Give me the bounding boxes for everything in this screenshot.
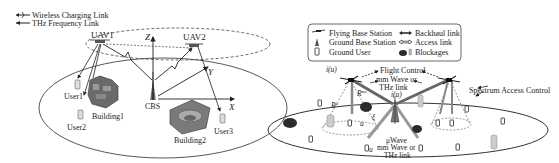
ground-user-legend-icon xyxy=(315,48,319,55)
z-axis-label: Z xyxy=(145,32,151,42)
uav1-label: UAV1 xyxy=(91,30,114,40)
right-legend: Flying Base Station Ground Base Station … xyxy=(308,24,461,61)
diagram-canvas: Wireless Charging Link THz Frequency Lin… xyxy=(0,0,559,163)
thz-links xyxy=(103,44,192,80)
backhaul-link-legend-label: Backhaul link xyxy=(415,29,460,38)
flight-control-label: Flight Control xyxy=(380,66,426,75)
u-label-2: u xyxy=(369,145,373,154)
user2-icon xyxy=(78,110,83,119)
thz-frequency-legend-label: THz Frequency Link xyxy=(32,19,99,28)
i-u-center-label: i(u) xyxy=(391,90,402,99)
blockages-legend-label: Blockages xyxy=(415,48,448,57)
y-axis-label: Y xyxy=(208,67,214,77)
building1-label: Building1 xyxy=(92,112,124,121)
access-link-legend-label: Access link xyxy=(415,38,452,47)
user2-label: User2 xyxy=(67,123,86,132)
r-nu-label: Rnu xyxy=(356,89,367,98)
ground-user-legend-label: Ground User xyxy=(329,48,371,57)
i-u-left-label: i(u) xyxy=(326,65,337,74)
spectrum-access-control-label: Spectrum Access Control xyxy=(469,86,551,95)
uav1-icon xyxy=(90,40,110,43)
user3-icon xyxy=(220,114,225,123)
building2-icon xyxy=(170,100,210,134)
user1-icon xyxy=(75,80,80,89)
thz-link-bottom-label: THz link xyxy=(384,151,411,160)
uav2-label: UAV2 xyxy=(183,32,206,42)
user3-label: User3 xyxy=(214,127,233,136)
xi-label: ξ xyxy=(372,113,376,122)
left-panel: Wireless Charging Link THz Frequency Lin… xyxy=(16,11,287,159)
x-axis-label: X xyxy=(228,102,235,112)
left-legend: Wireless Charging Link THz Frequency Lin… xyxy=(16,11,108,28)
ground-base-station-legend-label: Ground Base Station xyxy=(329,38,396,47)
uav2-icon xyxy=(185,44,203,47)
building2-label: Building2 xyxy=(174,136,206,145)
thz-frequency-legend-icon xyxy=(16,21,30,25)
wireless-charging-legend-icon xyxy=(16,12,30,18)
user1-label: User1 xyxy=(64,92,83,101)
building1-icon xyxy=(88,76,118,108)
cbs-label: CBS xyxy=(145,102,160,111)
flying-base-station-legend-label: Flying Base Station xyxy=(329,29,392,38)
r-n-label: Ru xyxy=(330,101,339,110)
u-label-1: u xyxy=(360,119,364,128)
right-panel: Flying Base Station Ground Base Station … xyxy=(268,24,551,160)
